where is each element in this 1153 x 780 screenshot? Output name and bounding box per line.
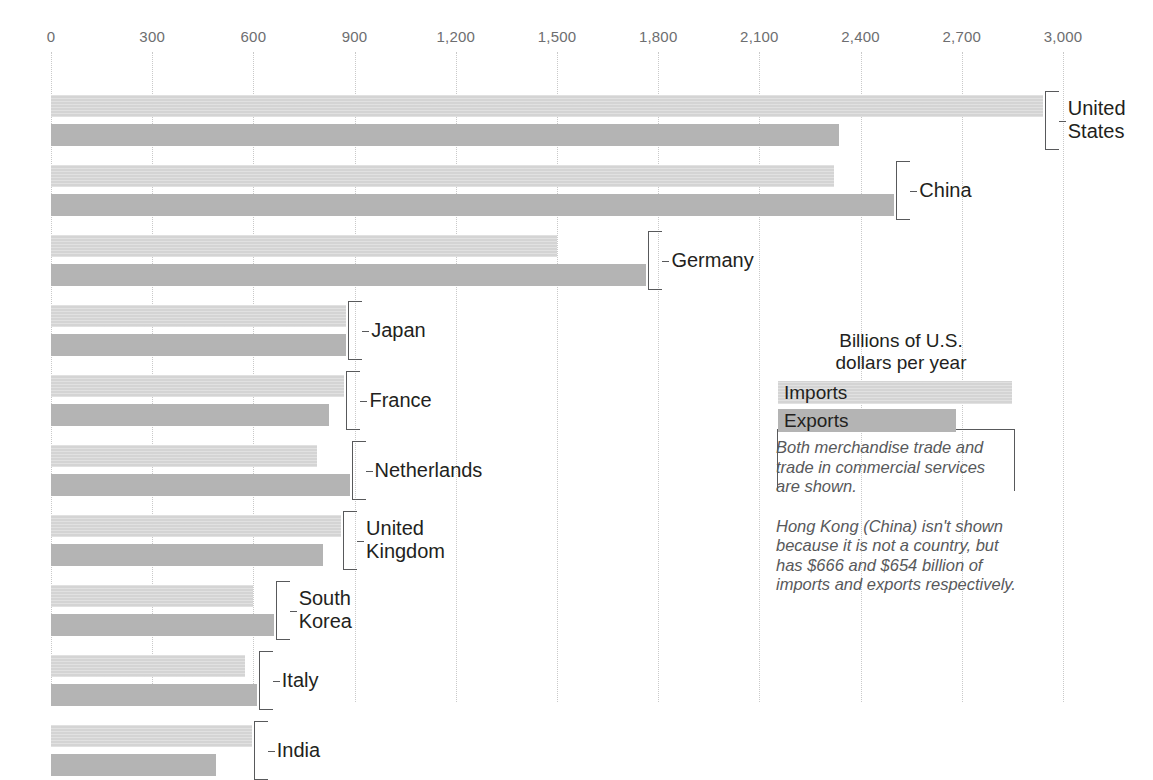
bar-exports xyxy=(51,544,323,566)
x-tick-label: 1,500 xyxy=(538,28,577,45)
legend-label-exports: Exports xyxy=(784,410,848,432)
bar-imports xyxy=(51,655,245,677)
group-bracket xyxy=(352,441,366,500)
x-tick-label: 300 xyxy=(139,28,165,45)
group-bracket xyxy=(896,161,910,220)
group-label-germany: Germany xyxy=(671,249,753,272)
bar-imports xyxy=(51,725,252,747)
x-tick-label: 900 xyxy=(342,28,368,45)
bar-exports xyxy=(51,754,216,776)
bar-imports xyxy=(51,585,253,607)
group-bracket xyxy=(276,581,290,640)
group-label-france: France xyxy=(369,389,431,412)
x-tick-label: 600 xyxy=(241,28,267,45)
group-bracket xyxy=(348,301,362,360)
group-label-netherlands: Netherlands xyxy=(375,459,483,482)
bracket-stem xyxy=(362,331,369,332)
bar-exports xyxy=(51,124,839,146)
legend: Billions of U.S. dollars per year Import… xyxy=(776,330,1026,595)
bracket-stem xyxy=(273,681,280,682)
group-label-china: China xyxy=(919,179,971,202)
bracket-stem xyxy=(360,401,367,402)
legend-label-imports: Imports xyxy=(784,382,847,404)
bar-exports xyxy=(51,614,274,636)
bracket-stem xyxy=(268,751,275,752)
x-tick-label: 3,000 xyxy=(1044,28,1083,45)
legend-note-hong-kong: Hong Kong (China) isn't shown because it… xyxy=(776,517,1026,595)
bar-imports xyxy=(51,235,557,257)
bar-imports xyxy=(51,445,317,467)
bracket-stem xyxy=(357,541,364,542)
bar-exports xyxy=(51,194,894,216)
gridline-3000 xyxy=(1063,52,1064,702)
x-tick-label: 2,100 xyxy=(740,28,779,45)
bar-imports xyxy=(51,165,834,187)
bar-exports xyxy=(51,684,257,706)
x-tick-label: 0 xyxy=(47,28,56,45)
group-bracket xyxy=(1045,91,1059,150)
bracket-stem xyxy=(290,611,297,612)
group-bracket xyxy=(259,651,273,710)
bar-exports xyxy=(51,334,346,356)
group-bracket xyxy=(343,511,357,570)
x-tick-label: 1,200 xyxy=(437,28,476,45)
group-label-japan: Japan xyxy=(371,319,426,342)
group-label-italy: Italy xyxy=(282,669,319,692)
gridline-2100 xyxy=(759,52,760,702)
bar-imports xyxy=(51,305,346,327)
gridline-1500 xyxy=(557,52,558,702)
bar-exports xyxy=(51,474,350,496)
group-label-united-states: United States xyxy=(1068,97,1126,143)
group-bracket xyxy=(254,721,268,780)
bracket-stem xyxy=(910,191,917,192)
x-tick-label: 2,700 xyxy=(943,28,982,45)
group-label-united-kingdom: United Kingdom xyxy=(366,517,445,563)
bar-exports xyxy=(51,404,329,426)
bracket-stem xyxy=(662,261,669,262)
legend-title: Billions of U.S. dollars per year xyxy=(776,330,1026,374)
gridline-1800 xyxy=(658,52,659,702)
bar-imports xyxy=(51,95,1043,117)
bracket-stem xyxy=(366,471,373,472)
x-tick-label: 2,400 xyxy=(841,28,880,45)
group-label-india: India xyxy=(277,739,320,762)
bar-imports xyxy=(51,375,344,397)
legend-bracket xyxy=(777,429,1015,491)
group-bracket xyxy=(346,371,360,430)
group-bracket xyxy=(648,231,662,290)
bracket-stem xyxy=(1059,121,1066,122)
bar-imports xyxy=(51,515,341,537)
x-tick-label: 1,800 xyxy=(639,28,678,45)
bar-exports xyxy=(51,264,646,286)
legend-row-imports: Imports xyxy=(776,381,1026,406)
legend-row-exports: Exports xyxy=(776,409,1026,434)
group-label-south-korea: South Korea xyxy=(299,587,352,633)
gridline-1200 xyxy=(456,52,457,702)
